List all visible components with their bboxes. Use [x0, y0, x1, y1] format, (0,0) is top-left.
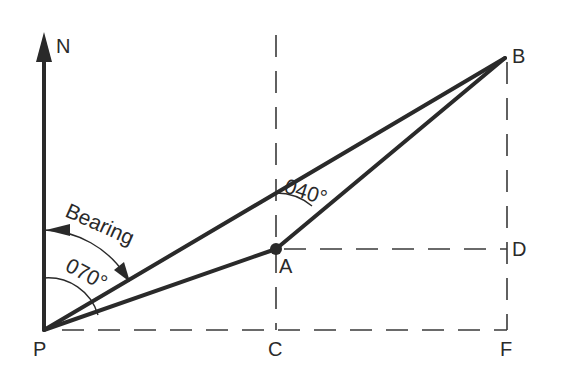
- label-d: D: [512, 238, 526, 260]
- diagram-svg: N P A B C D F Bearing 070° 040°: [0, 0, 563, 380]
- label-b: B: [512, 45, 525, 67]
- label-n: N: [56, 35, 70, 57]
- solid-lines: [44, 58, 505, 330]
- angle-label-040: 040°: [282, 174, 330, 209]
- north-arrow: [36, 32, 52, 330]
- bearing-arrow-start-icon: [46, 224, 70, 236]
- bearing-arrow-end-icon: [114, 262, 130, 282]
- bearing-diagram: N P A B C D F Bearing 070° 040°: [0, 0, 563, 380]
- line-p-to-b: [44, 58, 505, 330]
- point-a-marker: [270, 243, 282, 255]
- label-f: F: [500, 338, 512, 360]
- label-p: P: [33, 338, 46, 360]
- label-c: C: [268, 338, 282, 360]
- angle-label-070: 070°: [62, 253, 111, 294]
- label-a: A: [279, 255, 293, 277]
- dashed-guides: [62, 35, 507, 330]
- arrowhead-icon: [36, 32, 52, 62]
- bearing-label: Bearing: [62, 199, 137, 249]
- line-a-to-b: [276, 58, 505, 249]
